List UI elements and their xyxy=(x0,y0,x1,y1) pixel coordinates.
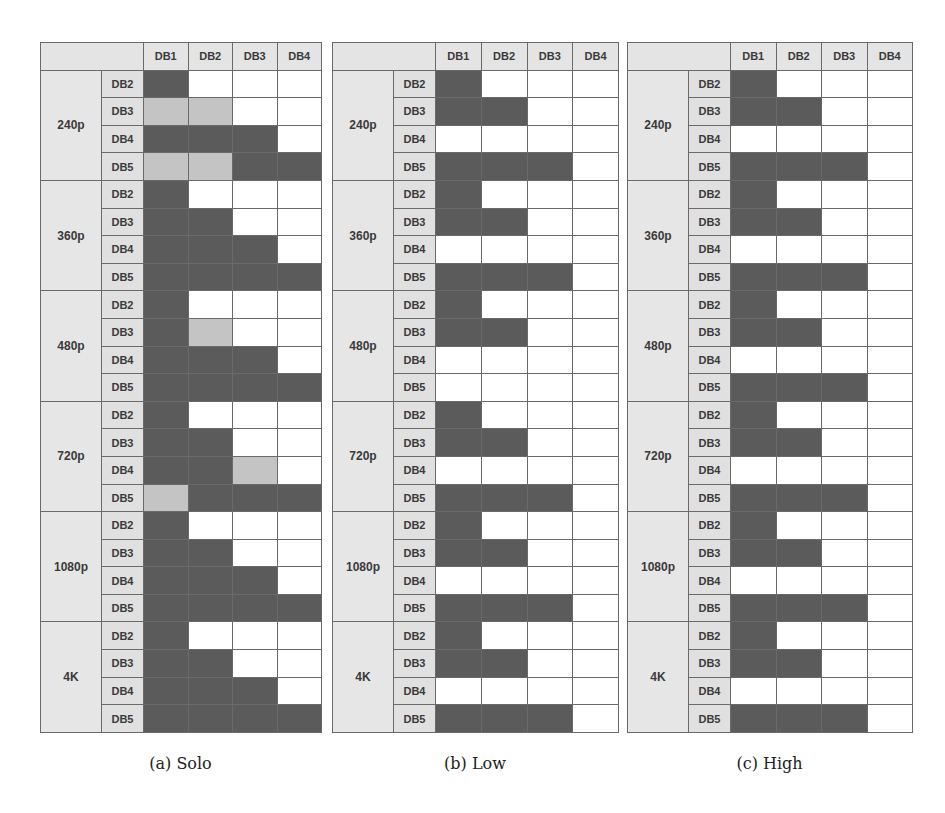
row-label: DB5 xyxy=(102,263,144,291)
table-row: 480pDB2 xyxy=(628,291,913,319)
matrix-cell xyxy=(527,594,573,622)
matrix-cell xyxy=(277,98,322,126)
matrix-cell xyxy=(867,208,913,236)
row-label: DB2 xyxy=(689,622,731,650)
matrix-cell xyxy=(573,484,619,512)
column-header-db2: DB2 xyxy=(188,43,233,71)
column-header-db1: DB1 xyxy=(436,43,482,71)
column-header-db1: DB1 xyxy=(144,43,189,71)
matrix-cell xyxy=(573,622,619,650)
panel-high: DB1DB2DB3DB4240pDB2DB3DB4DB5360pDB2DB3DB… xyxy=(627,42,913,733)
matrix-cell xyxy=(277,677,322,705)
caption-solo: (a) Solo xyxy=(40,754,321,773)
matrix-cell xyxy=(867,567,913,595)
matrix-cell xyxy=(867,512,913,540)
matrix-cell xyxy=(776,650,822,678)
row-label: DB4 xyxy=(689,346,731,374)
matrix-cell xyxy=(144,456,189,484)
matrix-cell xyxy=(573,208,619,236)
table-row: 480pDB2 xyxy=(333,291,619,319)
matrix-cell xyxy=(277,539,322,567)
matrix-cell xyxy=(436,401,482,429)
matrix-cell xyxy=(188,153,233,181)
row-label: DB2 xyxy=(394,291,436,319)
matrix-cell xyxy=(188,567,233,595)
resolution-label: 480p xyxy=(628,291,689,401)
matrix-cell xyxy=(436,180,482,208)
matrix-cell xyxy=(822,125,868,153)
row-label: DB5 xyxy=(689,263,731,291)
matrix-cell xyxy=(277,484,322,512)
matrix-cell xyxy=(822,180,868,208)
matrix-cell xyxy=(436,153,482,181)
row-label: DB3 xyxy=(102,429,144,457)
matrix-cell xyxy=(436,236,482,264)
matrix-cell xyxy=(776,70,822,98)
row-label: DB4 xyxy=(394,346,436,374)
matrix-cell xyxy=(527,677,573,705)
row-label: DB3 xyxy=(394,208,436,236)
matrix-cell xyxy=(144,236,189,264)
matrix-cell xyxy=(188,512,233,540)
row-label: DB3 xyxy=(689,318,731,346)
matrix-cell xyxy=(233,512,278,540)
matrix-cell xyxy=(527,512,573,540)
matrix-table-solo: DB1DB2DB3DB4240pDB2DB3DB4DB5360pDB2DB3DB… xyxy=(40,42,322,733)
matrix-cell xyxy=(233,98,278,126)
matrix-cell xyxy=(822,484,868,512)
matrix-cell xyxy=(144,677,189,705)
resolution-label: 4K xyxy=(628,622,689,732)
matrix-cell xyxy=(731,208,777,236)
matrix-cell xyxy=(233,650,278,678)
matrix-cell xyxy=(527,125,573,153)
matrix-cell xyxy=(776,594,822,622)
matrix-cell xyxy=(527,484,573,512)
header-row: DB1DB2DB3DB4 xyxy=(333,43,619,71)
matrix-table-high: DB1DB2DB3DB4240pDB2DB3DB4DB5360pDB2DB3DB… xyxy=(627,42,913,733)
matrix-cell xyxy=(731,484,777,512)
resolution-label: 720p xyxy=(333,401,394,511)
matrix-cell xyxy=(481,291,527,319)
matrix-cell xyxy=(144,401,189,429)
matrix-cell xyxy=(188,677,233,705)
row-label: DB4 xyxy=(102,125,144,153)
row-label: DB3 xyxy=(102,539,144,567)
matrix-cell xyxy=(436,318,482,346)
matrix-cell xyxy=(573,70,619,98)
matrix-cell xyxy=(573,677,619,705)
row-label: DB2 xyxy=(689,512,731,540)
table-row: 480pDB2 xyxy=(41,291,322,319)
matrix-cell xyxy=(822,594,868,622)
matrix-cell xyxy=(436,650,482,678)
row-label: DB3 xyxy=(102,208,144,236)
resolution-label: 240p xyxy=(41,70,102,180)
matrix-cell xyxy=(573,401,619,429)
row-label: DB4 xyxy=(394,456,436,484)
matrix-cell xyxy=(144,318,189,346)
row-label: DB3 xyxy=(394,650,436,678)
resolution-label: 1080p xyxy=(628,512,689,622)
matrix-cell xyxy=(481,236,527,264)
matrix-cell xyxy=(867,677,913,705)
table-row: 240pDB2 xyxy=(628,70,913,98)
row-label: DB2 xyxy=(689,180,731,208)
matrix-cell xyxy=(867,98,913,126)
row-label: DB5 xyxy=(394,374,436,402)
matrix-cell xyxy=(776,512,822,540)
matrix-cell xyxy=(436,208,482,236)
row-label: DB4 xyxy=(102,456,144,484)
row-label: DB2 xyxy=(394,512,436,540)
matrix-cell xyxy=(527,705,573,733)
matrix-cell xyxy=(822,456,868,484)
matrix-cell xyxy=(776,153,822,181)
row-label: DB5 xyxy=(394,484,436,512)
matrix-cell xyxy=(731,180,777,208)
matrix-cell xyxy=(822,705,868,733)
matrix-cell xyxy=(188,429,233,457)
matrix-cell xyxy=(822,263,868,291)
matrix-cell xyxy=(822,374,868,402)
row-label: DB3 xyxy=(394,539,436,567)
matrix-cell xyxy=(573,180,619,208)
row-label: DB4 xyxy=(689,677,731,705)
matrix-cell xyxy=(481,456,527,484)
